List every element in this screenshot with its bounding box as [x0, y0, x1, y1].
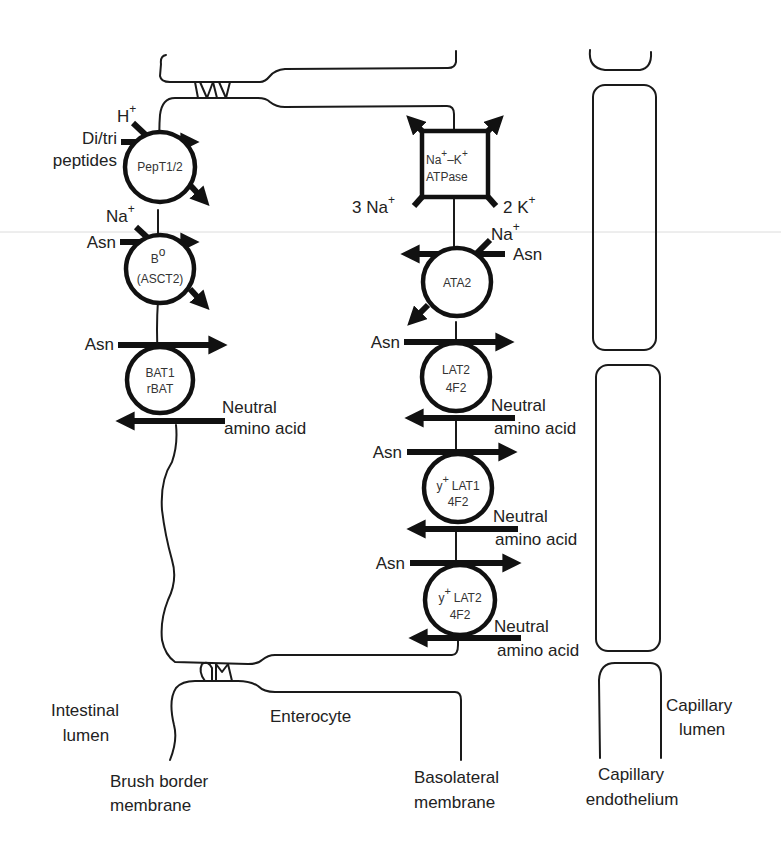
asn-label-ata2: Asn — [513, 245, 542, 264]
lat2-transporter-circle — [422, 343, 490, 411]
capillary-lumen-label-line1: Capillary — [666, 696, 733, 715]
atpase-na-out-arrow — [413, 122, 422, 131]
na-plus-label-apical: Na+ — [106, 202, 135, 226]
bat1-label-line1: BAT1 — [145, 366, 174, 380]
tight-junction-top — [195, 82, 230, 98]
basolateral-label-line2: membrane — [414, 793, 495, 812]
asn-label-b0: Asn — [87, 233, 116, 252]
capillary-lumen-label-line2: lumen — [679, 720, 725, 739]
amino-acid-label-y-lat2: amino acid — [497, 641, 579, 660]
brush-border-membrane — [157, 210, 458, 664]
lat2-label-line1: LAT2 — [442, 363, 470, 377]
ditri-label-line2: peptides — [53, 151, 117, 170]
neutral-label-y-lat2: Neutral — [494, 617, 549, 636]
asn-label-y-lat1: Asn — [373, 443, 402, 462]
transporter-pept1-2: PepT1/2 — [121, 123, 203, 202]
basolateral-label-line1: Basolateral — [414, 768, 499, 787]
atpase-na-tail — [414, 197, 422, 206]
transporter-na-k-atpase: Na+–K+ ATPase — [413, 122, 497, 206]
brush-border-label-line1: Brush border — [110, 772, 209, 791]
b0-label-line2: (ASCT2) — [137, 272, 184, 286]
capillary-endothelium-label-line1: Capillary — [598, 765, 665, 784]
na-exit-arrow — [190, 289, 203, 303]
neutral-label-y-lat1: Neutral — [493, 507, 548, 526]
enterocyte-transport-diagram: PepT1/2 Bo (ASCT2) BAT1 rBAT Na+–K+ ATPa… — [0, 0, 781, 855]
amino-acid-label-bat1: amino acid — [224, 419, 306, 438]
atpase-label-line2: ATPase — [426, 170, 468, 184]
transporter-b0-asct2: Bo (ASCT2) — [120, 227, 203, 303]
asn-label-y-lat2: Asn — [376, 554, 405, 573]
tight-junction-bottom — [201, 663, 232, 681]
enterocyte-label: Enterocyte — [270, 707, 351, 726]
h-plus-label: H+ — [117, 102, 136, 126]
lat2-label-line2: 4F2 — [446, 381, 467, 395]
bat1-label-line2: rBAT — [147, 382, 174, 396]
atpase-k-tail — [488, 197, 496, 206]
capillary-endothelium-label-line2: endothelium — [586, 790, 679, 809]
intestinal-lumen-label-line1: Intestinal — [51, 701, 119, 720]
capillary-top-fragment — [590, 50, 651, 70]
capillary-endothelial-cell-lower — [599, 663, 661, 758]
y-lat2-label-line2: 4F2 — [450, 608, 471, 622]
capillary-endothelial-cell-middle — [596, 365, 660, 651]
pept-label: PepT1/2 — [137, 160, 183, 174]
three-na-label: 3 Na+ — [352, 193, 395, 217]
neighbor-cell-top-membrane — [160, 51, 456, 82]
amino-acid-label-lat2: amino acid — [494, 419, 576, 438]
neutral-label-lat2: Neutral — [491, 396, 546, 415]
na-plus-label-ata2: Na+ — [491, 220, 520, 244]
y-lat1-label-line2: 4F2 — [448, 495, 469, 509]
ata2-label: ATA2 — [443, 276, 472, 290]
enterocyte-top-lateral-membrane — [159, 98, 454, 190]
two-k-label: 2 K+ — [503, 193, 536, 217]
atpase-k-in-arrow — [488, 122, 497, 131]
asn-label-bat1: Asn — [85, 335, 114, 354]
bat1-transporter-circle — [127, 347, 193, 413]
transporter-bat1-rbat: BAT1 rBAT — [118, 345, 225, 421]
na-exit-arrow — [414, 305, 428, 319]
h-plus-exit-arrow — [190, 185, 203, 199]
ditri-label-line1: Di/tri — [82, 129, 117, 148]
intestinal-lumen-label-line2: lumen — [63, 726, 109, 745]
capillary-endothelial-cell-upper — [593, 85, 656, 350]
neutral-label-bat1: Neutral — [222, 398, 277, 417]
brush-border-label-line2: membrane — [110, 796, 191, 815]
asn-label-lat2: Asn — [371, 333, 400, 352]
transporter-ata2: ATA2 — [410, 240, 505, 319]
amino-acid-label-y-lat1: amino acid — [495, 530, 577, 549]
